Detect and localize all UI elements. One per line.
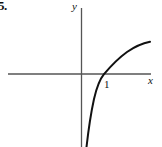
x-tick-label-one: 1: [104, 79, 110, 90]
logarithmic-curve: [87, 42, 151, 147]
y-axis-label: y: [72, 1, 77, 12]
x-axis-label: x: [148, 75, 153, 86]
graph-canvas: [0, 0, 162, 147]
textbook-figure: 5. y x 1: [0, 0, 162, 147]
